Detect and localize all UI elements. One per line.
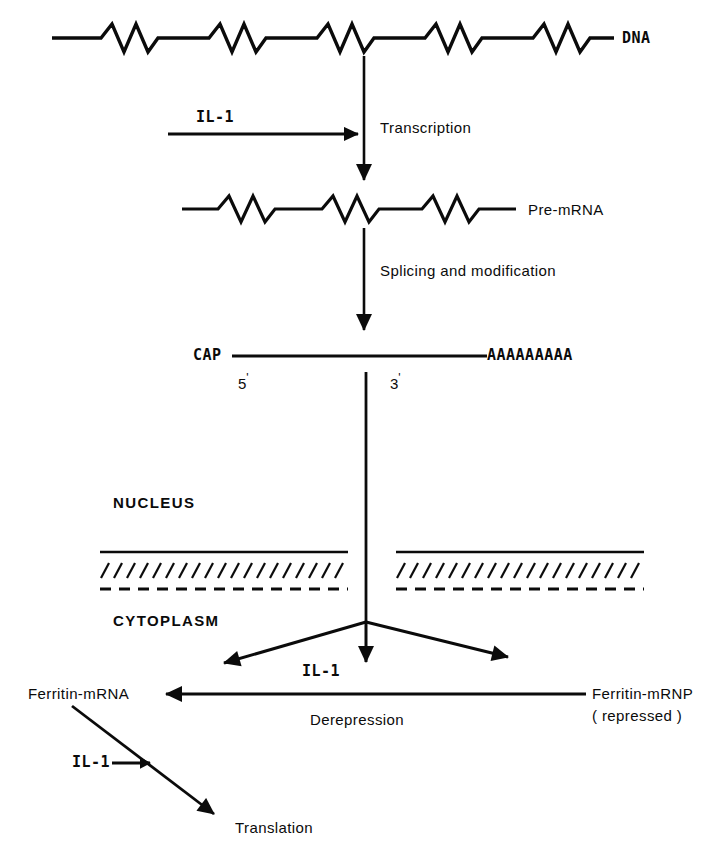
pathway-diagram: DNA IL-1 Transcription Pre-mRNA Splicing… — [0, 0, 708, 859]
three-prime-label: 3' — [390, 376, 401, 391]
cytoplasm-branch-arrows — [224, 622, 508, 663]
nuclear-envelope-hatch-right — [397, 563, 639, 578]
dna-strand — [52, 24, 614, 52]
translation-label: Translation — [235, 820, 313, 835]
diagram-vector-layer — [0, 0, 708, 859]
il1-transcription-label: IL-1 — [196, 110, 234, 125]
splicing-label: Splicing and modification — [380, 263, 556, 278]
ferritin-mrna-label: Ferritin-mRNA — [28, 686, 129, 701]
pre-mrna-label: Pre-mRNA — [528, 202, 604, 217]
five-prime-label: 5' — [238, 376, 249, 391]
polya-label: AAAAAAAAA — [487, 348, 573, 363]
pre-mrna-strand — [182, 196, 516, 222]
nuclear-envelope-hatch-left — [101, 563, 343, 578]
cap-label: CAP — [193, 348, 222, 363]
transcription-label: Transcription — [380, 120, 471, 135]
cytoplasm-label: CYTOPLASM — [113, 613, 220, 628]
ferritin-mrnp-state-label: ( repressed ) — [592, 708, 682, 723]
nucleus-label: NUCLEUS — [113, 495, 195, 510]
dna-label: DNA — [622, 31, 651, 46]
nuclear-envelope — [100, 552, 644, 589]
derepression-label: Derepression — [310, 712, 404, 727]
il1-export-label: IL-1 — [302, 664, 340, 679]
ferritin-mrnp-label: Ferritin-mRNP — [592, 686, 693, 701]
il1-translation-label: IL-1 — [72, 755, 110, 770]
